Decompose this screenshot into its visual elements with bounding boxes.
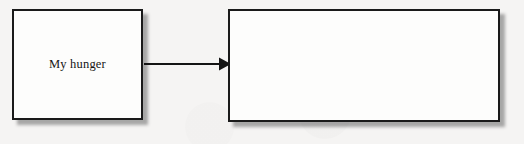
arrow-hunger-to-empty [143,52,231,76]
arrow-right-icon [143,52,231,76]
node-my-hunger[interactable]: My hunger [12,9,143,120]
node-my-hunger-label: My hunger [49,57,106,72]
node-blank[interactable] [228,9,500,122]
diagram-canvas: My hunger [0,0,524,144]
